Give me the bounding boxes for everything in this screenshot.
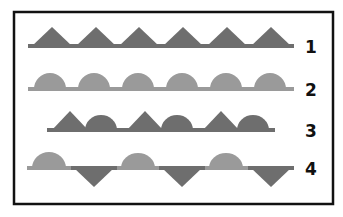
row-label-1: 1	[305, 39, 317, 56]
triangle-symbol	[52, 111, 88, 130]
weather-front-symbols-diagram	[0, 0, 343, 217]
semicircle-symbol	[34, 73, 66, 89]
triangle-down-symbol	[74, 168, 114, 187]
triangle-down-symbol	[162, 168, 202, 187]
front-row-2	[28, 73, 294, 91]
triangle-symbol	[127, 111, 163, 130]
semicircle-symbol	[122, 73, 154, 89]
triangle-down-symbol	[251, 168, 291, 187]
semicircle-symbol	[166, 73, 198, 89]
triangle-symbol	[119, 27, 159, 46]
triangle-symbol	[207, 27, 247, 46]
semicircle-symbol	[237, 115, 269, 130]
semicircle-symbol	[78, 73, 110, 89]
triangle-symbol	[163, 27, 203, 46]
row-label-4: 4	[305, 161, 317, 178]
semicircle-symbol	[209, 153, 243, 168]
triangle-symbol	[203, 111, 239, 130]
semicircle-symbol	[254, 73, 286, 89]
semicircle-symbol	[32, 152, 66, 168]
row-label-3: 3	[305, 123, 317, 140]
front-rows	[27, 27, 294, 187]
triangle-symbol	[251, 27, 291, 46]
triangle-symbol	[32, 27, 72, 46]
semicircle-symbol	[210, 73, 242, 89]
semicircle-symbol	[161, 115, 193, 130]
front-row-4	[27, 152, 294, 187]
triangle-symbol	[76, 27, 116, 46]
row-label-2: 2	[305, 82, 317, 99]
semicircle-symbol	[121, 153, 155, 168]
front-row-1	[28, 27, 294, 48]
semicircle-symbol	[85, 115, 117, 130]
front-row-3	[47, 111, 275, 132]
